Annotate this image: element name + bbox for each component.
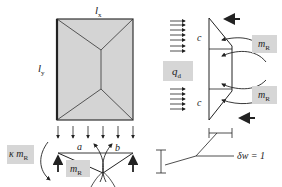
qd-label: qd: [172, 66, 181, 80]
mr-bottom-label: mR: [70, 164, 82, 177]
mr-right-top-label: mR: [258, 39, 270, 52]
delta-w-label: δw = 1: [237, 151, 265, 161]
a-label: a: [77, 142, 82, 152]
ly-label: ly: [38, 63, 45, 77]
mr-right-bottom-label: mR: [258, 90, 270, 103]
slab-plan: [57, 19, 133, 120]
kappa-mr-label: κ mR: [9, 149, 28, 162]
c-bottom-label: c: [197, 98, 201, 108]
b-label: b: [115, 143, 120, 153]
lx-label: lx: [95, 5, 102, 19]
load-arrows-down: [58, 126, 133, 138]
c-top-label: c: [197, 33, 201, 43]
